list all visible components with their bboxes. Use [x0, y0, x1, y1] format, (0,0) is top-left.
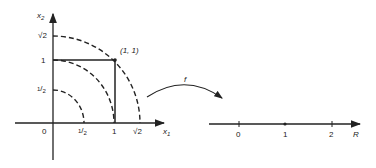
tick-label-0: 0: [236, 130, 241, 139]
point-1-1: [113, 58, 117, 62]
mapping-arrow: [147, 85, 222, 98]
arc-half: [53, 90, 84, 123]
y-tick-1: 1: [41, 56, 46, 65]
real-line-label: R: [353, 130, 359, 139]
y-tick-sqrt2: √2: [38, 31, 47, 40]
tick-label-2: 2: [329, 130, 334, 139]
real-line: 0 1 2 R: [209, 121, 360, 139]
x-tick-1: 1: [112, 127, 117, 136]
point-1: [283, 122, 286, 125]
diagram-canvas: x2 x1 0 √2 1 1/2 1/2 1 √2 (1, 1) f 0 1 2…: [0, 0, 376, 168]
x-tick-sqrt2: √2: [133, 127, 142, 136]
left-plot: x2 x1 0 √2 1 1/2 1/2 1 √2 (1, 1): [15, 11, 170, 160]
tick-label-1: 1: [283, 130, 288, 139]
y-axis-label: x2: [36, 11, 45, 21]
origin-label: 0: [42, 127, 47, 136]
mapping-f: f: [147, 75, 222, 98]
mapping-label: f: [184, 75, 187, 84]
y-tick-half: 1/2: [37, 84, 47, 94]
point-label: (1, 1): [120, 46, 139, 55]
x-axis-label: x1: [162, 127, 170, 137]
x-tick-half: 1/2: [78, 126, 88, 136]
